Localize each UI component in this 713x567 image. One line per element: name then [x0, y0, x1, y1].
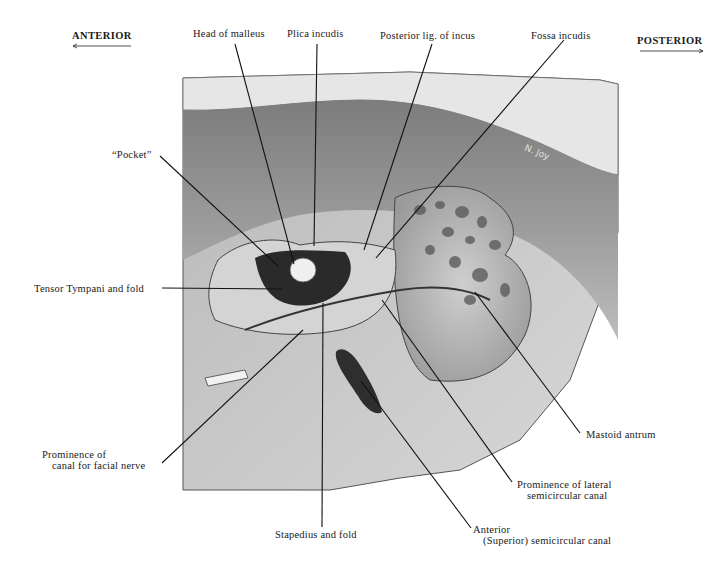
- label-plica-incudis: Plica incudis: [287, 28, 344, 39]
- anatomical-figure: N. Joy: [0, 0, 713, 567]
- label-mastoid-antrum: Mastoid antrum: [586, 429, 656, 440]
- label-lateral-semicircular-canal: Prominence of lateral semicircular canal: [517, 479, 612, 501]
- label-stapedius: Stapedius and fold: [275, 529, 357, 540]
- direction-arrows: [73, 44, 703, 53]
- label-facial-nerve-prominence: Prominence of canal for facial nerve: [42, 449, 145, 471]
- posterior-direction-label: POSTERIOR: [637, 35, 702, 46]
- label-pocket: “Pocket”: [112, 149, 152, 160]
- label-tensor-tympani: Tensor Tympani and fold: [34, 283, 144, 294]
- label-anterior-semicircular-canal: Anterior (Superior) semicircular canal: [473, 524, 611, 546]
- label-posterior-lig-of-incus: Posterior lig. of incus: [380, 30, 475, 41]
- label-fossa-incudis: Fossa incudis: [531, 30, 590, 41]
- anterior-direction-label: ANTERIOR: [72, 30, 132, 41]
- label-head-of-malleus: Head of malleus: [193, 28, 265, 39]
